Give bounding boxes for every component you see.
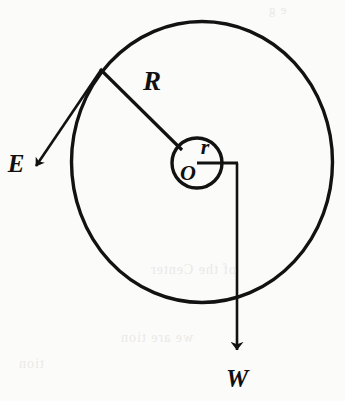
radius-line-R (100, 69, 182, 150)
label-outer-radius: R (142, 66, 161, 96)
label-force-E: E (7, 150, 25, 177)
label-force-W: W (226, 365, 250, 392)
label-inner-radius: r (201, 134, 210, 159)
force-arrow-E (36, 70, 101, 166)
figure-container: e g of the Center we are tion tion R r O (0, 0, 345, 401)
force-diagram: R r O E W (0, 0, 345, 401)
label-center-point: O (180, 160, 196, 185)
